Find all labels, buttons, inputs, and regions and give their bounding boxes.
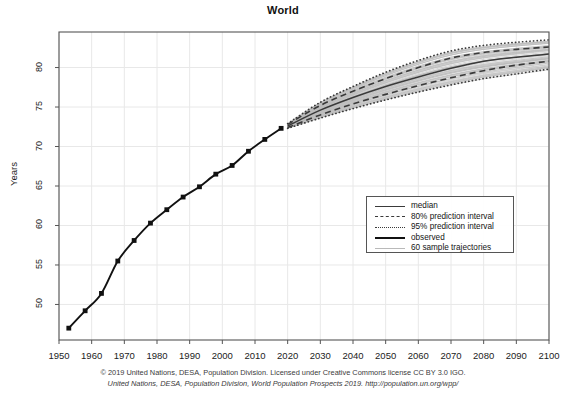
observed-marker — [181, 195, 186, 200]
observed-marker — [148, 221, 153, 226]
observed-marker — [262, 137, 267, 142]
legend-label: observed — [411, 233, 445, 242]
observed-marker — [115, 259, 120, 264]
legend-swatch-icon — [373, 211, 407, 222]
observed-marker — [279, 126, 284, 131]
observed-marker — [132, 238, 137, 243]
legend-item-95-prediction-interval: 95% prediction interval — [367, 221, 515, 232]
observed-marker — [213, 172, 218, 177]
observed-marker — [164, 207, 169, 212]
legend-swatch-icon — [373, 232, 407, 243]
legend-item-median: median — [367, 200, 515, 211]
observed-marker — [83, 308, 88, 313]
observed-marker — [197, 184, 202, 189]
legend-label: median — [411, 201, 438, 210]
legend-label: 95% prediction interval — [411, 222, 494, 231]
legend-item-60-sample-trajectories: 60 sample trajectories — [367, 242, 515, 253]
legend-swatch-icon — [373, 200, 407, 211]
legend-label: 80% prediction interval — [411, 212, 494, 221]
observed-marker — [230, 163, 235, 168]
caption-line-1: © 2019 United Nations, DESA, Population … — [0, 368, 566, 377]
legend-swatch-icon — [373, 221, 407, 232]
observed-marker — [66, 326, 71, 331]
legend-label: 60 sample trajectories — [411, 243, 491, 252]
legend-item-80-prediction-interval: 80% prediction interval — [367, 211, 515, 222]
observed-line — [69, 128, 281, 328]
life-expectancy-projection-chart: World Years 50556065707580 1950196019701… — [0, 0, 566, 397]
legend-swatch-icon — [373, 242, 407, 253]
legend-item-observed: observed — [367, 232, 515, 243]
observed-marker — [99, 291, 104, 296]
chart-legend: median80% prediction interval95% predict… — [366, 196, 514, 253]
observed-marker — [246, 149, 251, 154]
caption-line-2: United Nations, DESA, Population Divisio… — [0, 379, 566, 388]
